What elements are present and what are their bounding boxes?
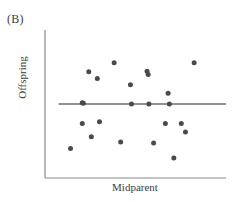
data-point	[129, 102, 134, 107]
data-point	[163, 121, 168, 126]
data-point	[167, 102, 172, 107]
data-points	[68, 60, 197, 160]
data-point	[95, 76, 100, 81]
data-point	[146, 102, 151, 107]
data-point	[151, 141, 156, 146]
data-point	[166, 91, 171, 96]
x-axis-label: Midparent	[45, 182, 225, 193]
data-point	[128, 82, 133, 87]
scatter-plot-figure: (B) Offspring Midparent	[0, 0, 237, 202]
y-axis-label: Offspring	[17, 30, 28, 126]
data-point	[146, 72, 151, 77]
data-point	[86, 69, 91, 74]
data-point	[171, 156, 176, 161]
data-point	[68, 146, 73, 151]
data-point	[112, 60, 117, 65]
data-point	[179, 121, 184, 126]
data-point	[192, 60, 197, 65]
data-point	[81, 101, 86, 106]
data-point	[97, 119, 102, 124]
data-point	[118, 140, 123, 145]
data-point	[80, 121, 85, 126]
data-point	[183, 129, 188, 134]
data-point	[89, 134, 94, 139]
plot-canvas	[0, 0, 237, 202]
